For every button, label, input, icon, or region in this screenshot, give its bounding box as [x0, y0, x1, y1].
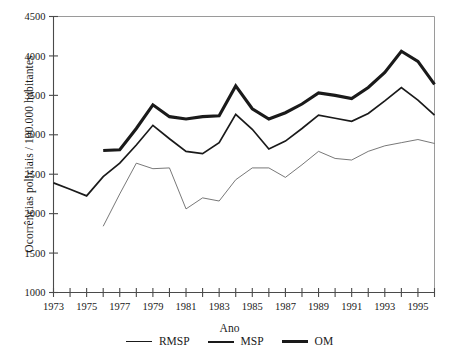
x-tick-label: 1977	[109, 301, 130, 312]
x-tick-label: 1989	[308, 301, 329, 312]
series-line-rmsp	[103, 140, 434, 227]
x-tick-label: 1981	[176, 301, 197, 312]
x-tick-label: 1979	[142, 301, 163, 312]
x-tick-label: 1995	[407, 301, 428, 312]
x-axis-title: Ano	[0, 322, 459, 334]
y-tick-label: 1500	[25, 248, 46, 259]
y-tick-label: 3500	[25, 90, 46, 101]
legend-item-msp: MSP	[208, 336, 264, 348]
x-tick-label: 1987	[275, 301, 296, 312]
y-tick-label: 3000	[25, 129, 46, 140]
x-tick-label: 1991	[341, 301, 362, 312]
x-tick-label: 1975	[76, 301, 97, 312]
chart-legend: RMSP MSP OM	[0, 336, 459, 348]
x-tick-label: 1993	[374, 301, 395, 312]
legend-line-icon-msp	[208, 341, 234, 343]
y-tick-label: 2000	[25, 208, 46, 219]
legend-label-msp: MSP	[241, 336, 264, 348]
legend-item-om: OM	[282, 336, 334, 348]
legend-line-icon-om	[282, 340, 308, 343]
legend-item-rmsp: RMSP	[126, 336, 190, 348]
x-tick-label: 1985	[242, 301, 263, 312]
y-tick-label: 2500	[25, 169, 46, 180]
series-line-msp	[54, 87, 435, 195]
x-tick-label: 1973	[43, 301, 64, 312]
y-tick-label: 4000	[25, 51, 46, 62]
x-tick-label: 1983	[209, 301, 230, 312]
legend-line-icon-rmsp	[126, 341, 152, 342]
y-tick-label: 4500	[25, 11, 46, 22]
legend-label-om: OM	[315, 336, 334, 348]
legend-label-rmsp: RMSP	[159, 336, 190, 348]
plot-area: 1000150020002500300035004000450019731975…	[0, 0, 459, 358]
y-tick-label: 1000	[25, 287, 46, 298]
line-chart: Ocorrências policiais / 100.000 habitant…	[0, 0, 459, 358]
